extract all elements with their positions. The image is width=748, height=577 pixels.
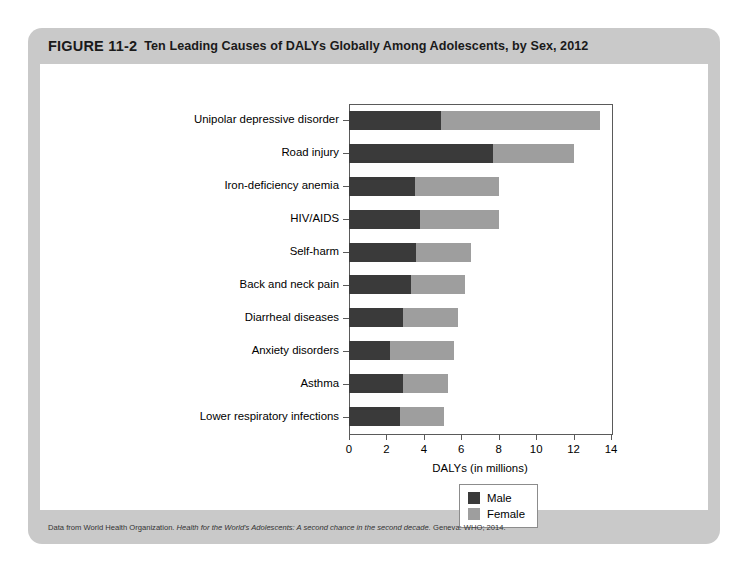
x-axis-tick (461, 434, 462, 440)
bar-segment-male (349, 177, 415, 196)
x-axis-tick (424, 434, 425, 440)
bar-segment-male (349, 374, 403, 393)
bar-segment-female (416, 243, 470, 262)
bar-track (349, 374, 611, 393)
legend-item-male: Male (468, 490, 525, 506)
bar-track (349, 407, 611, 426)
y-axis-tick (343, 417, 349, 418)
legend-swatch-male-icon (468, 492, 480, 504)
figure-body: DALYs (in millions) Male Female Unipolar… (40, 64, 708, 510)
y-axis-tick-label: Diarrheal diseases (39, 311, 339, 323)
bar-segment-female (400, 407, 445, 426)
figure-number: FIGURE 11-2 (48, 38, 137, 54)
bar-row (349, 104, 611, 137)
bar-segment-male (349, 210, 420, 229)
bar-row (349, 400, 611, 433)
bar-row (349, 236, 611, 269)
bar-segment-female (403, 374, 448, 393)
x-axis-tick-label: 10 (516, 443, 556, 455)
bar-track (349, 177, 611, 196)
y-axis-tick-label: Back and neck pain (39, 278, 339, 290)
y-axis-tick-label: Road injury (39, 146, 339, 158)
bar-row (349, 367, 611, 400)
bar-track (349, 210, 611, 229)
bar-segment-male (349, 341, 390, 360)
y-axis-tick-label: Lower respiratory infections (39, 410, 339, 422)
bar-segment-female (415, 177, 499, 196)
bar-track (349, 243, 611, 262)
bar-segment-male (349, 144, 493, 163)
x-axis-tick-label: 14 (591, 443, 631, 455)
figure-footer: Data from World Health Organization. Hea… (28, 510, 720, 544)
y-axis-tick-label: Iron-deficiency anemia (39, 179, 339, 191)
bar-row (349, 269, 611, 302)
figure-header: FIGURE 11-2 Ten Leading Causes of DALYs … (28, 28, 720, 64)
bar-track (349, 144, 611, 163)
bar-segment-male (349, 243, 416, 262)
bar-row (349, 301, 611, 334)
x-axis-tick (536, 434, 537, 440)
y-axis-tick (343, 252, 349, 253)
y-axis-tick (343, 120, 349, 121)
bar-segment-male (349, 275, 411, 294)
y-axis-tick-label: HIV/AIDS (39, 212, 339, 224)
bar-segment-male (349, 308, 403, 327)
y-axis-tick-label: Self-harm (39, 245, 339, 257)
x-axis-tick (611, 434, 612, 440)
bar-track (349, 275, 611, 294)
bar-track (349, 341, 611, 360)
figure-title: Ten Leading Causes of DALYs Globally Amo… (144, 39, 588, 53)
x-axis-tick-label: 8 (479, 443, 519, 455)
y-axis-tick-label: Unipolar depressive disorder (39, 113, 339, 125)
x-axis-tick (574, 434, 575, 440)
legend-label-male: Male (487, 492, 512, 504)
x-axis-title: DALYs (in millions) (349, 462, 611, 474)
x-axis-tick-label: 2 (366, 443, 406, 455)
figure-card: FIGURE 11-2 Ten Leading Causes of DALYs … (28, 28, 720, 544)
source-note: Data from World Health Organization. Hea… (48, 523, 506, 532)
source-note-suffix: Geneva: WHO; 2014. (431, 523, 506, 532)
bar-segment-female (420, 210, 499, 229)
bar-row (349, 137, 611, 170)
bar-segment-female (493, 144, 573, 163)
bar-row (349, 170, 611, 203)
x-axis-tick-label: 12 (554, 443, 594, 455)
bar-segment-female (441, 111, 600, 130)
bar-segment-female (403, 308, 457, 327)
y-axis-tick-label: Anxiety disorders (39, 344, 339, 356)
source-note-title: Health for the World's Adolescents: A se… (177, 523, 431, 532)
x-axis-tick (499, 434, 500, 440)
x-axis-tick-label: 6 (441, 443, 481, 455)
y-axis-tick (343, 351, 349, 352)
x-axis-tick (349, 434, 350, 440)
x-axis-tick-label: 0 (329, 443, 369, 455)
x-axis-tick-label: 4 (404, 443, 444, 455)
bar-segment-male (349, 407, 400, 426)
y-axis-tick (343, 219, 349, 220)
y-axis-tick (343, 318, 349, 319)
bar-segment-female (411, 275, 465, 294)
y-axis-tick-label: Asthma (39, 377, 339, 389)
bar-row (349, 334, 611, 367)
stacked-bar-chart: DALYs (in millions) Male Female Unipolar… (40, 64, 708, 510)
y-axis-tick (343, 153, 349, 154)
bar-row (349, 203, 611, 236)
bar-track (349, 308, 611, 327)
bar-track (349, 111, 611, 130)
y-axis-tick (343, 384, 349, 385)
y-axis-tick (343, 285, 349, 286)
bar-segment-female (390, 341, 454, 360)
x-axis-tick (386, 434, 387, 440)
y-axis-tick (343, 186, 349, 187)
bar-segment-male (349, 111, 441, 130)
source-note-prefix: Data from World Health Organization. (48, 523, 177, 532)
